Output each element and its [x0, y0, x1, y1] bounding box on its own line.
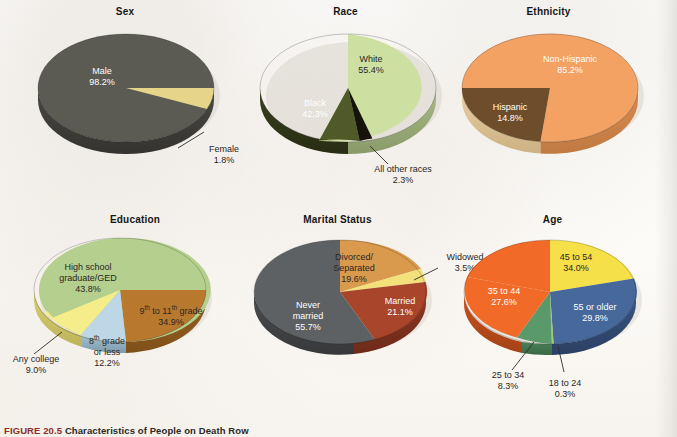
slice-label-divorced-value: 19.6% — [341, 274, 367, 284]
g911-b: to 11 — [150, 306, 172, 316]
slice-label-male-text: Male — [92, 66, 112, 76]
figure-caption-number: FIGURE 20.5 — [4, 425, 62, 436]
slice-label-never-line1: Never — [296, 300, 320, 310]
panel-title-marital-status: Marital Status — [220, 214, 455, 225]
slice-label-white-text: White — [359, 54, 382, 64]
leader-line-any-college — [32, 330, 72, 356]
g911-c: grade — [177, 306, 203, 316]
slice-label-grade-9-11-value: 34.9% — [158, 317, 184, 327]
slice-label-black-text: Black — [304, 98, 326, 108]
slice-label-black-value: 42.3% — [302, 109, 328, 119]
slice-label-married-value: 21.1% — [387, 307, 413, 317]
slice-label-age-55-plus-value: 29.8% — [582, 313, 608, 323]
slice-label-grade-8-text: 8th grade — [89, 336, 125, 346]
slice-label-non-hispanic-value: 85.2% — [557, 65, 583, 75]
callout-other-races: All other races 2.3% — [356, 164, 450, 186]
panel-title-race: Race — [228, 6, 463, 17]
callout-age-18-24: 18 to 24 0.3% — [534, 378, 596, 400]
slice-label-hispanic-text: Hispanic — [493, 102, 528, 112]
slice-label-non-hispanic: Non-Hispanic 85.2% — [520, 54, 620, 76]
slice-label-age-35-44-value: 27.6% — [491, 297, 517, 307]
panel-title-sex: Sex — [0, 6, 250, 17]
slice-label-hs-line2: graduate/GED — [59, 273, 117, 283]
slice-label-grade-8-value: 12.2% — [94, 358, 120, 368]
g8-b: grade — [99, 336, 125, 346]
slice-label-divorced-line2: Separated — [333, 263, 375, 273]
slice-label-white-value: 55.4% — [358, 65, 384, 75]
slice-label-hispanic: Hispanic 14.8% — [474, 102, 546, 124]
slice-label-divorced-line1: Divorced/ — [335, 252, 373, 262]
slice-label-age-55-plus-text: 55 or older — [573, 302, 616, 312]
panel-age: Age — [452, 214, 677, 414]
slice-label-hispanic-value: 14.8% — [497, 113, 523, 123]
slice-label-black: Black 42.3% — [280, 98, 350, 120]
slice-label-hs-grad: High school graduate/GED 43.8% — [36, 262, 140, 295]
slice-label-grade-8: 8th grade or less 12.2% — [72, 336, 142, 369]
slice-label-non-hispanic-text: Non-Hispanic — [543, 54, 597, 64]
slice-label-hs-value: 43.8% — [75, 284, 101, 294]
pie-chart-ethnicity — [458, 26, 643, 156]
slice-label-age-45-54-text: 45 to 54 — [560, 252, 593, 262]
pie-svg-ethnicity — [458, 26, 643, 156]
figure-caption-title: Characteristics of People on Death Row — [65, 425, 249, 436]
panel-title-age: Age — [440, 214, 665, 225]
leader-line-age-25-34 — [510, 340, 544, 372]
slice-label-age-45-54-value: 34.0% — [563, 263, 589, 273]
slice-label-grade-9-11: 9th to 11th grade 34.9% — [116, 306, 226, 328]
slice-label-age-35-44-text: 35 to 44 — [488, 286, 521, 296]
slice-label-never-line2: married — [293, 311, 324, 321]
slice-label-age-35-44: 35 to 44 27.6% — [466, 286, 542, 308]
callout-age-25-34: 25 to 34 8.3% — [476, 370, 540, 392]
slice-label-never-value: 55.7% — [295, 322, 321, 332]
slice-label-hs-line1: High school — [64, 262, 111, 272]
slice-label-grade-9-11-text: 9th to 11th grade — [139, 306, 202, 316]
callout-age-25-34-text: 25 to 34 — [492, 370, 525, 380]
callout-age-18-24-value: 0.3% — [555, 389, 576, 399]
panel-race: Race — [228, 6, 463, 196]
callout-other-races-text: All other races — [374, 164, 432, 174]
slice-label-divorced: Divorced/ Separated 19.6% — [314, 252, 394, 285]
slice-label-male-value: 98.2% — [89, 77, 115, 87]
panel-ethnicity: Ethnicity — [452, 6, 677, 196]
slice-label-married-text: Married — [385, 296, 416, 306]
panel-marital-status: Marital Status — [228, 214, 463, 414]
panel-education: Education — [0, 214, 250, 414]
figure-caption: FIGURE 20.5 Characteristics of People on… — [4, 425, 249, 436]
pie-chart-race — [256, 26, 441, 156]
slice-label-married: Married 21.1% — [364, 296, 436, 318]
callout-any-college: Any college 9.0% — [0, 354, 72, 376]
figure-sheet: Sex Male 98.2% Female — [0, 0, 677, 437]
panel-title-ethnicity: Ethnicity — [436, 6, 661, 17]
slice-label-age-45-54: 45 to 54 34.0% — [536, 252, 616, 274]
leader-line-age-18-24 — [554, 344, 574, 374]
callout-any-college-value: 9.0% — [26, 365, 47, 375]
callout-age-25-34-value: 8.3% — [498, 381, 519, 391]
callout-age-18-24-text: 18 to 24 — [549, 378, 582, 388]
callout-any-college-text: Any college — [13, 354, 60, 364]
slice-label-grade-8-line2: or less — [94, 347, 121, 357]
callout-other-races-value: 2.3% — [393, 175, 414, 185]
slice-label-age-55-plus: 55 or older 29.8% — [550, 302, 640, 324]
leader-line-other-races — [366, 144, 400, 166]
slice-label-white: White 55.4% — [336, 54, 406, 76]
pie-svg-race — [256, 26, 441, 156]
panel-sex: Sex Male 98.2% Female — [0, 6, 250, 196]
slice-label-male: Male 98.2% — [62, 66, 142, 88]
slice-label-never-married: Never married 55.7% — [270, 300, 346, 333]
